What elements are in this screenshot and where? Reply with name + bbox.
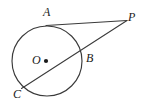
point-label-c: C: [13, 88, 21, 100]
tangent-line-AP: [46, 21, 127, 26]
point-label-a: A: [43, 6, 50, 18]
geometry-canvas: [0, 0, 144, 105]
geometry-figure: A P B O C: [0, 0, 144, 105]
point-label-o: O: [32, 54, 41, 66]
center-point-O-dot: [44, 59, 48, 63]
point-label-b: B: [86, 52, 93, 64]
point-label-p: P: [128, 11, 135, 23]
